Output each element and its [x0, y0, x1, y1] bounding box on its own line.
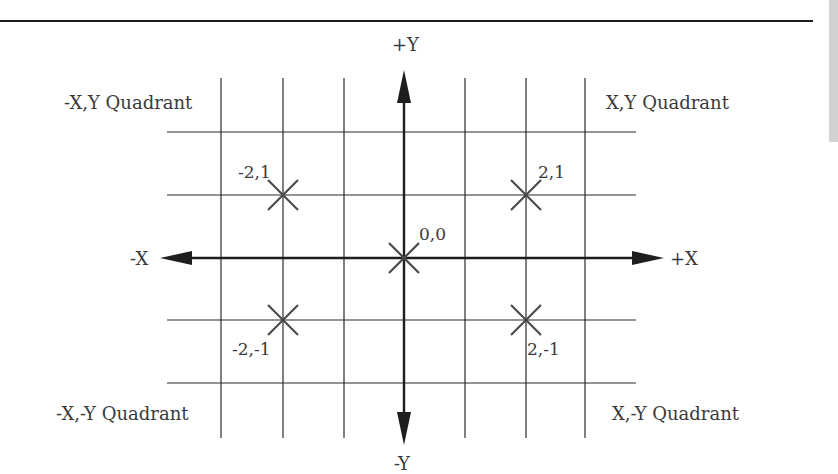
quadrant-label-bottom-right: X,-Y Quadrant	[612, 403, 740, 424]
x-axis	[160, 251, 664, 265]
quadrant-label-top-right: X,Y Quadrant	[606, 92, 730, 113]
quadrant-label-top-left: -X,Y Quadrant	[64, 92, 193, 113]
point-label: -2,-1	[232, 339, 271, 359]
x-negative-label: -X	[130, 248, 148, 269]
y-negative-label: -Y	[394, 453, 411, 474]
point-label: -2,1	[238, 162, 271, 182]
arrow-right-icon	[632, 251, 664, 265]
y-positive-label: +Y	[392, 34, 420, 55]
coordinate-diagram: +Y -Y -X +X -X,Y Quadrant X,Y Quadrant -…	[0, 0, 838, 474]
point-label: 2,-1	[527, 339, 560, 359]
x-positive-label: +X	[670, 248, 698, 269]
quadrant-label-bottom-left: -X,-Y Quadrant	[56, 403, 189, 424]
side-tab-marker	[829, 0, 838, 142]
point-label: 0,0	[419, 224, 446, 244]
arrow-up-icon	[397, 70, 411, 103]
arrow-down-icon	[397, 412, 411, 445]
arrow-left-icon	[160, 251, 192, 265]
point-label: 2,1	[538, 162, 565, 182]
